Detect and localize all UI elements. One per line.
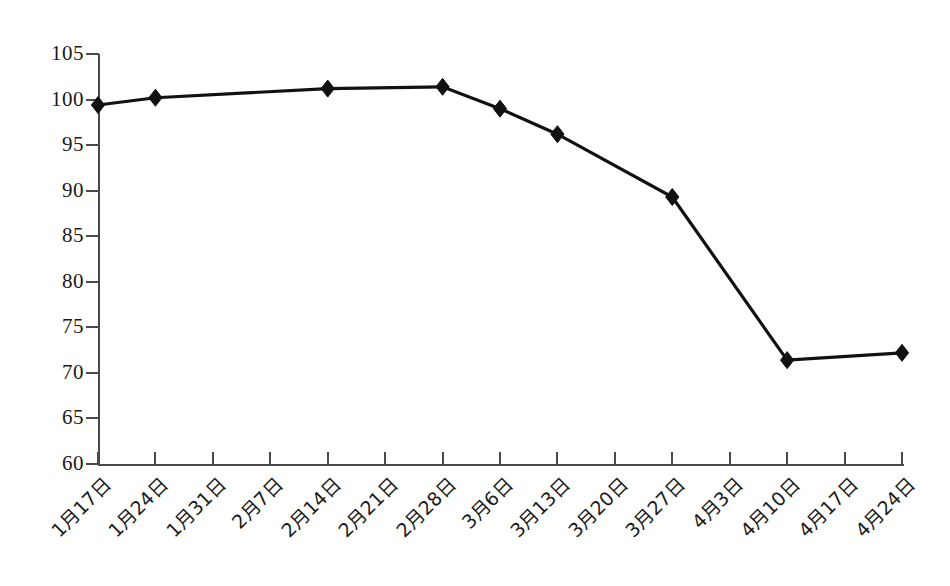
data-point-marker <box>91 97 104 114</box>
data-point-marker <box>493 100 506 117</box>
data-point-marker <box>321 80 334 97</box>
series-line <box>98 87 902 360</box>
series-markers <box>91 78 908 368</box>
line-chart: 1051009590858075706560 1月17日1月24日1月31日2月… <box>0 0 950 586</box>
series-layer <box>0 0 950 586</box>
data-point-marker <box>551 126 564 143</box>
data-point-marker <box>149 89 162 106</box>
data-point-marker <box>436 78 449 95</box>
data-point-marker <box>895 344 908 361</box>
